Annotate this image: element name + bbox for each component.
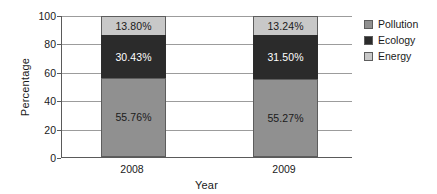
bar-label-2008-pollution: 55.76% [115,112,151,123]
bar-segment-2009-pollution[interactable]: 55.27% [253,79,318,157]
bar-segment-2008-energy[interactable]: 13.80% [101,16,166,35]
y-tick-label-80: 80 [16,38,56,50]
chart-legend: Pollution Ecology Energy [364,17,418,63]
bar-label-2008-ecology: 30.43% [115,52,151,63]
bar-2009[interactable]: 13.24% 31.50% 55.27% [253,16,318,157]
plot-area: 13.80% 30.43% 55.76% 13.24% 31.50% 55. [61,16,352,158]
legend-item-ecology[interactable]: Ecology [364,33,418,47]
bar-segment-2009-energy[interactable]: 13.24% [253,16,318,35]
x-tick-label-2009: 2009 [244,163,324,175]
x-tick-label-2008: 2008 [92,163,172,175]
legend-swatch-energy-icon [364,52,373,61]
legend-item-pollution[interactable]: Pollution [364,17,418,31]
y-tick-mark-0 [57,158,61,159]
legend-label-pollution: Pollution [378,19,418,30]
stacked-bar-chart: Percentage 100 80 60 40 20 0 13.80% 30.4… [0,0,437,194]
legend-label-energy: Energy [378,51,411,62]
legend-swatch-pollution-icon [364,20,373,29]
bar-segment-2008-pollution[interactable]: 55.76% [101,78,166,157]
y-tick-label-60: 60 [16,67,56,79]
legend-item-energy[interactable]: Energy [364,49,418,63]
x-axis-title: Year [61,179,352,191]
bar-segment-2009-ecology[interactable]: 31.50% [253,35,318,79]
y-tick-label-0: 0 [16,152,56,164]
y-tick-label-100: 100 [16,10,56,22]
y-axis-title: Percentage [16,16,34,158]
bar-label-2009-pollution: 55.27% [267,113,303,124]
y-tick-label-40: 40 [16,95,56,107]
legend-swatch-ecology-icon [364,36,373,45]
bar-label-2009-energy: 13.24% [267,21,303,32]
bar-label-2008-energy: 13.80% [115,21,151,32]
bar-label-2009-ecology: 31.50% [267,52,303,63]
bar-segment-2008-ecology[interactable]: 30.43% [101,35,166,78]
y-tick-label-20: 20 [16,124,56,136]
bar-2008[interactable]: 13.80% 30.43% 55.76% [101,16,166,157]
legend-label-ecology: Ecology [378,35,415,46]
